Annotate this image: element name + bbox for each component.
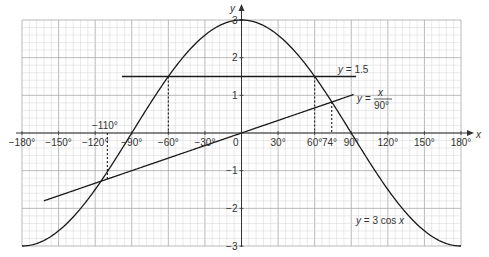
x-tick-label: 120° [377, 137, 398, 148]
label-74: 74° [322, 137, 337, 148]
y-tick-label: −2 [226, 203, 238, 214]
label-linear: y = x 90° [356, 87, 392, 111]
x-tick-label: 90° [344, 137, 359, 148]
x-tick-label: −150° [45, 137, 72, 148]
label-minus110: −110° [92, 120, 118, 131]
svg-text:=: = [365, 93, 371, 104]
x-tick-label: −90° [121, 137, 142, 148]
y-tick-label: 3 [232, 15, 238, 26]
y-tick-label: −1 [226, 165, 238, 176]
svg-text:y: y [356, 93, 363, 104]
label-y-1-5: y = 1.5 [337, 64, 369, 75]
x-tick-label: 60° [307, 137, 322, 148]
trig-graph: −180°−150°−120°−90°−60°−30°30°60°90°120°… [0, 0, 489, 257]
svg-text:90°: 90° [374, 100, 389, 111]
x-tick-label: −180° [9, 137, 36, 148]
x-tick-label: 150° [414, 137, 435, 148]
x-tick-label: 180° [451, 137, 472, 148]
x-tick-label: −60° [158, 137, 179, 148]
x-tick-label: 30° [271, 137, 286, 148]
y-axis-label: y [229, 3, 236, 14]
x-axis-label: x [475, 129, 482, 140]
x-tick-label: −30° [194, 137, 215, 148]
y-tick-label: 1 [232, 90, 238, 101]
y-tick-label: −3 [226, 241, 238, 252]
y-tick-label: 2 [232, 52, 238, 63]
svg-text:x: x [377, 87, 384, 98]
origin-label: 0 [233, 137, 239, 148]
x-tick-label: −120° [82, 137, 109, 148]
label-cos: y = 3 cos x [355, 215, 405, 226]
